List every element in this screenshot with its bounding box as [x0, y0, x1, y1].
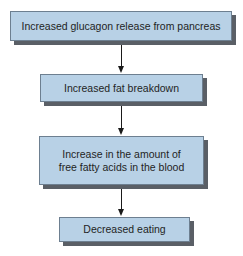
arrow-2-head-icon [118, 128, 124, 135]
arrow-3-line [121, 189, 122, 209]
node-label: Decreased eating [83, 223, 165, 236]
arrow-1-line [121, 45, 122, 67]
arrow-1-head-icon [118, 66, 124, 73]
node-label: Increased fat breakdown [64, 82, 179, 95]
node-fat-breakdown: Increased fat breakdown [40, 74, 203, 102]
arrow-2-line [121, 106, 122, 128]
node-label: Increased glucagon release from pancreas [21, 20, 220, 33]
arrow-3-head-icon [118, 209, 124, 216]
node-label: Increase in the amount of free fatty aci… [54, 148, 189, 174]
node-decreased-eating: Decreased eating [59, 217, 190, 242]
node-free-fatty-acids: Increase in the amount of free fatty aci… [39, 136, 204, 185]
node-glucagon-release: Increased glucagon release from pancreas [10, 11, 232, 41]
